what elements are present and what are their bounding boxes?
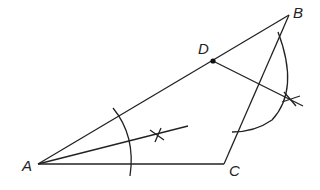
label-b: B (293, 4, 303, 21)
construction-diagram: A B C D (0, 0, 320, 190)
label-a: A (22, 157, 32, 174)
diagram-canvas (0, 0, 320, 190)
label-c: C (229, 162, 240, 179)
point-d-dot (210, 58, 215, 63)
angle-bisector (38, 126, 188, 164)
segment-ab (38, 15, 289, 164)
segment-bc (224, 15, 289, 164)
label-d: D (198, 40, 209, 57)
